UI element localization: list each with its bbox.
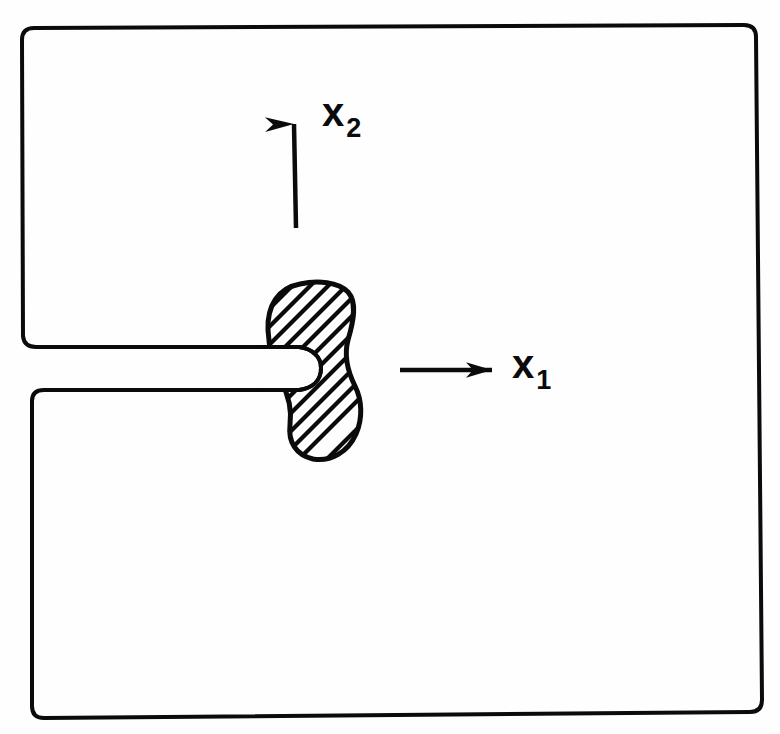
plastic-zone bbox=[248, 248, 538, 576]
figure-root: x2 x1 bbox=[0, 0, 780, 734]
axis-label-x1-base: x bbox=[512, 342, 534, 386]
axis-label-x2-base: x bbox=[322, 90, 344, 134]
axis-arrows bbox=[294, 124, 492, 370]
arrow-up-icon bbox=[294, 124, 296, 228]
axis-label-x2-subscript: 2 bbox=[346, 113, 361, 143]
plate-outline-upper bbox=[22, 25, 762, 718]
axis-label-x2: x2 bbox=[322, 92, 361, 142]
fracture-diagram-svg bbox=[0, 0, 780, 734]
plate-boundary bbox=[22, 25, 762, 718]
axis-label-x1-subscript: 1 bbox=[536, 365, 551, 395]
crack-slot-interior bbox=[262, 349, 319, 388]
axis-label-x1: x1 bbox=[512, 344, 551, 394]
